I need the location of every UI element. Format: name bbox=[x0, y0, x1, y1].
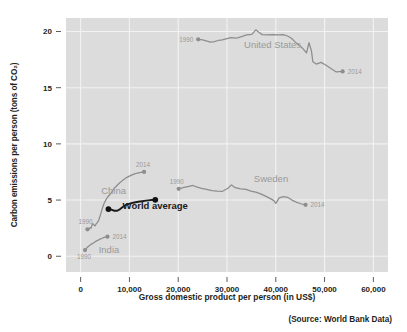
y-tick-label: 10 bbox=[43, 140, 52, 149]
data-point-marker bbox=[105, 235, 109, 239]
series-label-india: India bbox=[99, 244, 120, 255]
data-point-marker bbox=[85, 227, 89, 231]
series-label-sweden: Sweden bbox=[254, 173, 288, 184]
x-axis-title: Gross domestic product per person (in US… bbox=[139, 292, 316, 302]
data-point-marker bbox=[142, 170, 146, 174]
data-point-marker bbox=[83, 248, 87, 252]
endpoint-year-label: 2014 bbox=[136, 161, 151, 168]
series-label-china: China bbox=[101, 185, 127, 196]
x-tick-label: 50,000 bbox=[312, 285, 337, 294]
data-point-marker bbox=[341, 69, 345, 73]
endpoint-year-label: 1990 bbox=[78, 218, 93, 225]
source-note: (Source: World Bank Data) bbox=[288, 315, 392, 324]
x-tick-label: 0 bbox=[78, 285, 83, 294]
series-label-world-average: World average bbox=[123, 200, 188, 211]
data-point-marker bbox=[177, 187, 181, 191]
endpoint-year-label: 1990 bbox=[179, 36, 194, 43]
y-tick-label: 15 bbox=[43, 84, 52, 93]
series-label-united-states: United States bbox=[244, 39, 301, 50]
x-tick-label: 60,000 bbox=[361, 285, 386, 294]
endpoint-year-label: 2014 bbox=[112, 233, 127, 240]
y-tick-label: 5 bbox=[48, 196, 53, 205]
chart-figure: 010,00020,00030,00040,00050,00060,000 05… bbox=[0, 0, 407, 332]
endpoint-year-label: 1990 bbox=[77, 253, 92, 260]
data-point-marker bbox=[303, 203, 307, 207]
data-point-marker bbox=[196, 37, 200, 41]
scatter-line-chart: 010,00020,00030,00040,00050,00060,000 05… bbox=[0, 0, 407, 332]
endpoint-year-label: 2014 bbox=[348, 68, 363, 75]
endpoint-year-label: 2014 bbox=[311, 201, 326, 208]
y-tick-label: 20 bbox=[43, 27, 52, 36]
y-axis-title: Carbon emissions per person (tons of CO₂… bbox=[10, 62, 19, 227]
data-point-marker bbox=[106, 206, 112, 212]
y-tick-label: 0 bbox=[48, 252, 53, 261]
endpoint-year-label: 1990 bbox=[170, 178, 185, 185]
